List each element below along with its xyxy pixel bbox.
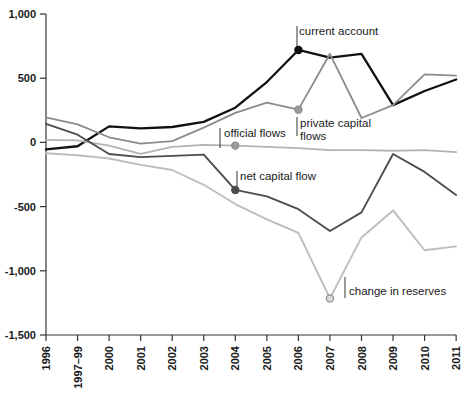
annotation-label-change-in-reserves: change in reserves (349, 285, 446, 297)
x-tick-label: 2001 (135, 346, 147, 370)
y-tick-label: 0 (30, 136, 36, 148)
annotation-label-current-account: current account (299, 25, 379, 37)
series-marker-change-in-reserves (326, 295, 333, 302)
x-tick-label: 2006 (292, 346, 304, 370)
series-marker-private-capital-flows (295, 106, 302, 113)
x-tick-label: 2007 (324, 346, 336, 370)
x-tick-label: 2002 (166, 346, 178, 370)
y-tick-label: 500 (18, 72, 36, 84)
series-line-official-flows (46, 140, 456, 154)
annotation-label-line2: flows (300, 130, 326, 142)
annotation-label-official-flows: official flows (224, 127, 286, 139)
x-tick-label: 2004 (229, 345, 241, 370)
x-tick-label: 2011 (450, 346, 462, 370)
y-tick-label: 1,000 (8, 8, 36, 20)
series-marker-current-account (295, 46, 302, 53)
x-tick-label: 1997–99 (72, 346, 84, 389)
line-chart: 1,0005000-500-1,000-1,500 19961997–99200… (0, 0, 471, 393)
x-tick-label: 2003 (198, 346, 210, 370)
chart-container: 1,0005000-500-1,000-1,500 19961997–99200… (0, 0, 471, 393)
series-marker-net-capital-flow (232, 186, 239, 193)
x-tick-label: 2005 (261, 346, 273, 370)
y-tick-label: -500 (14, 201, 36, 213)
y-tick-label: -1,000 (5, 265, 36, 277)
x-tick-label: 2000 (103, 346, 115, 370)
x-tick-label: 1996 (40, 346, 52, 370)
y-tick-label: -1,500 (5, 329, 36, 341)
y-axis: 1,0005000-500-1,000-1,500 (5, 8, 46, 341)
annotation-group: current accountofficial flowsprivate cap… (220, 25, 446, 302)
annotation-label-private-capital-flows: private capital (300, 117, 371, 129)
series-marker-official-flows (232, 142, 239, 149)
x-tick-label: 2009 (387, 346, 399, 370)
x-tick-label: 2010 (419, 346, 431, 370)
x-axis: 19961997–9920002001200220032004200520062… (40, 335, 462, 389)
annotation-label-net-capital-flow: net capital flow (240, 170, 317, 182)
x-tick-label: 2008 (356, 346, 368, 370)
